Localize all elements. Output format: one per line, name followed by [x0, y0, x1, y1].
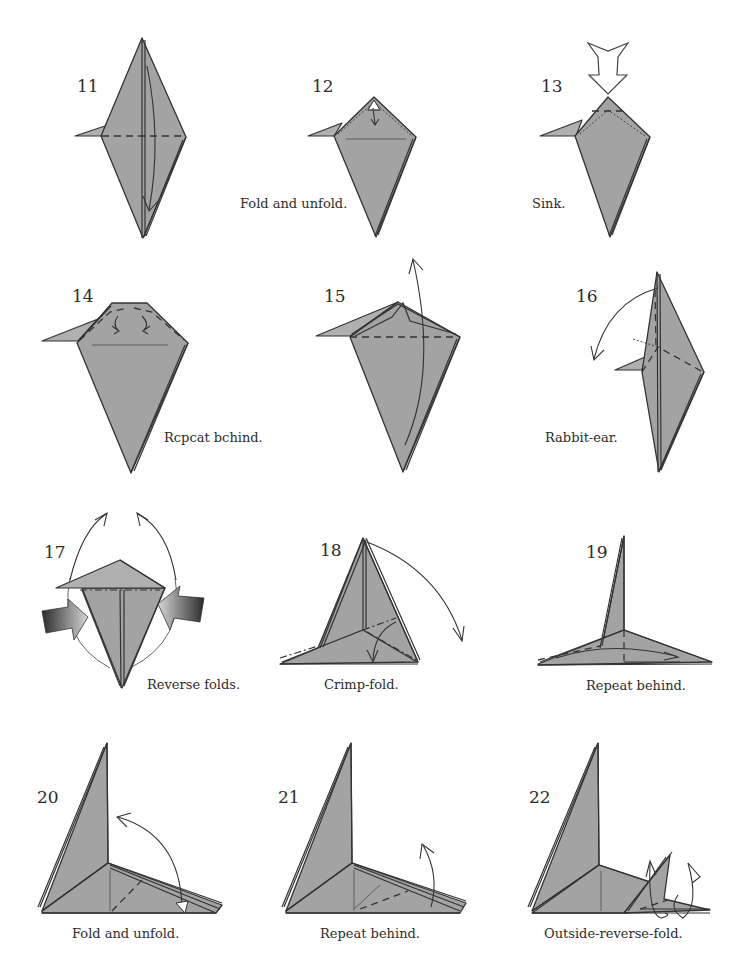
step-21: 21 Repeat behind. — [270, 735, 480, 950]
step-14-diagram — [0, 250, 280, 480]
step-14: 14 Rcpcat bchind. — [0, 250, 280, 480]
reverse-fold-arrow-icon — [158, 586, 204, 630]
step-15: 15 — [270, 250, 470, 480]
step-18-diagram — [270, 530, 480, 700]
step-12-diagram — [230, 0, 430, 250]
step-11: 11 — [0, 0, 250, 250]
step-20: 20 Fold and unfold. — [30, 735, 260, 950]
step-16: 16 Rabbit-ear. — [560, 250, 750, 480]
step-11-diagram — [0, 0, 250, 250]
step-17: 17 Reverse folds. — [0, 500, 260, 710]
reverse-fold-arrow-icon — [42, 599, 88, 640]
step-13-diagram — [500, 0, 740, 250]
step-16-diagram — [560, 250, 750, 480]
step-19-diagram — [530, 530, 752, 700]
step-17-diagram — [0, 500, 260, 710]
fold-arrow-icon — [138, 514, 176, 580]
step-15-diagram — [270, 250, 470, 480]
step-22: 22 Outside-reverse-fold. — [520, 735, 752, 950]
step-13: 13 Sink. — [500, 0, 740, 250]
step-12: 12 Fold and unfold. — [230, 0, 430, 250]
step-22-diagram — [520, 735, 752, 950]
step-19: 19 Repeat behind. — [530, 530, 752, 700]
step-21-diagram — [270, 735, 480, 950]
sink-arrow-icon — [588, 43, 628, 94]
step-20-diagram — [30, 735, 260, 950]
step-18: 18 Crimp-fold. — [270, 530, 480, 700]
